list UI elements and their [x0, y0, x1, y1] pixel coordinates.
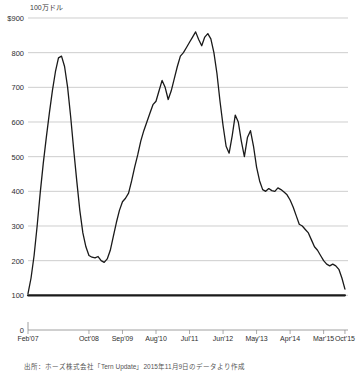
- y-axis-tick-label: 600: [11, 118, 28, 127]
- line-chart-svg: [28, 18, 348, 330]
- x-axis-tick-label: Feb'07: [17, 335, 38, 342]
- plot-area: $9008007006005004003002001000 Feb'07Oct'…: [28, 18, 348, 330]
- gridlines: [28, 18, 348, 295]
- main-series: [28, 32, 345, 294]
- data-series: [28, 32, 345, 295]
- x-axis-tick-label: Oct'08: [79, 335, 99, 342]
- source-note: 出所：ホーズ株式会社「Tern Update」2015年11月9日のデータより作…: [24, 361, 245, 371]
- y-axis-tick-label: 500: [11, 152, 28, 161]
- y-axis-tick-label: 100: [11, 291, 28, 300]
- x-axis-tick-label: Apr'14: [280, 335, 300, 342]
- x-axis-tick-label: Oct'15: [335, 335, 355, 342]
- chart-unit-label: 100万ドル: [30, 2, 63, 12]
- y-axis-tick-label: 800: [11, 48, 28, 57]
- x-axis-tick-label: Jun'12: [213, 335, 233, 342]
- y-axis-tick-label: 400: [11, 187, 28, 196]
- x-tick-marks: [28, 330, 345, 334]
- y-axis-tick-label: 200: [11, 256, 28, 265]
- x-axis-tick-label: Jul'11: [181, 335, 199, 342]
- y-axis-tick-label: $900: [7, 14, 28, 23]
- chart-container: 100万ドル $9008007006005004003002001000 Feb…: [0, 0, 357, 371]
- y-axis-tick-label: 700: [11, 83, 28, 92]
- x-axis-tick-label: May'13: [245, 335, 267, 342]
- x-axis-tick-label: Mar'15: [313, 335, 334, 342]
- y-axis-tick-label: 0: [20, 326, 28, 335]
- x-axis-tick-label: Sep'09: [112, 335, 134, 342]
- y-axis-tick-label: 300: [11, 222, 28, 231]
- x-axis-tick-label: Aug'10: [145, 335, 167, 342]
